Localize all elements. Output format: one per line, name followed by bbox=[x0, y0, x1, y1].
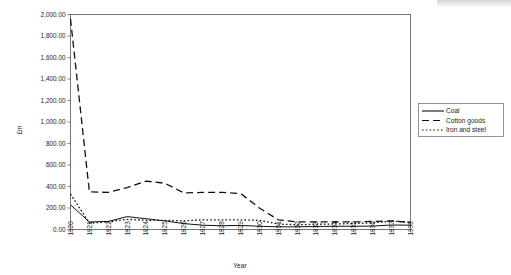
x-tick-label: 1928 bbox=[218, 221, 225, 236]
y-axis-title: £m bbox=[16, 125, 23, 135]
y-tick-label: 1,600.00 bbox=[41, 54, 66, 61]
y-axis-tick-labels: 0.00200.00400.00600.00800.001,000.001,20… bbox=[41, 11, 66, 233]
x-tick-label: 1929 bbox=[237, 221, 244, 236]
y-tick-label: 800.00 bbox=[46, 140, 66, 147]
legend-label-cotton-goods: Cotton goods bbox=[446, 117, 486, 125]
x-tick-label: 1924 bbox=[142, 221, 149, 236]
y-tick-label: 400.00 bbox=[46, 183, 66, 190]
x-tick-label: 1927 bbox=[199, 221, 206, 236]
plot-frame bbox=[71, 15, 411, 230]
chart-screenshot: 0.00200.00400.00600.00800.001,000.001,20… bbox=[0, 0, 511, 275]
line-chart: 0.00200.00400.00600.00800.001,000.001,20… bbox=[0, 0, 511, 275]
legend-label-coal: Coal bbox=[446, 107, 460, 114]
legend: CoalCotton goodsIron and steel bbox=[419, 104, 504, 137]
series-line-cotton-goods bbox=[71, 19, 411, 223]
x-axis-tick-labels: 1920192119221923192419251926192719281929… bbox=[67, 221, 414, 236]
x-axis-title: Year bbox=[233, 262, 247, 269]
x-tick-label: 1920 bbox=[67, 221, 74, 236]
x-tick-label: 1932 bbox=[294, 221, 301, 236]
y-tick-label: 200.00 bbox=[46, 204, 66, 211]
y-tick-label: 1,400.00 bbox=[41, 75, 66, 82]
y-tick-label: 0.00 bbox=[53, 226, 66, 233]
data-series-group bbox=[71, 19, 411, 227]
y-axis-ticks bbox=[68, 15, 71, 230]
x-tick-label: 1930 bbox=[256, 221, 263, 236]
y-tick-label: 2,000.00 bbox=[41, 11, 66, 18]
y-tick-label: 1,000.00 bbox=[41, 118, 66, 125]
y-tick-label: 600.00 bbox=[46, 161, 66, 168]
x-tick-label: 1925 bbox=[161, 221, 168, 236]
x-tick-label: 1923 bbox=[124, 221, 131, 236]
legend-label-iron-and-steel: Iron and steel bbox=[446, 126, 486, 133]
x-tick-label: 1922 bbox=[105, 221, 112, 236]
series-line-iron-and-steel bbox=[71, 194, 411, 225]
x-tick-label: 1934 bbox=[331, 221, 338, 236]
x-tick-label: 1937 bbox=[388, 221, 395, 236]
y-tick-label: 1,800.00 bbox=[41, 32, 66, 39]
y-tick-label: 1,200.00 bbox=[41, 97, 66, 104]
x-tick-label: 1933 bbox=[312, 221, 319, 236]
